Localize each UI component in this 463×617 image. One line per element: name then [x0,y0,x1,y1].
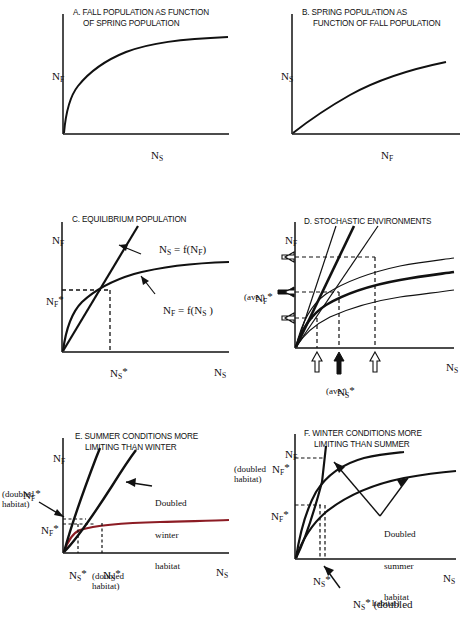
axes-a [63,14,229,134]
curve-fall-vs-spring [64,37,228,133]
panel-c-curve-label-steep: NS = f(NF) [148,233,206,269]
panel-f-ns-doubled-paren2: habitat) [372,598,400,608]
figure-page: { "figure": { "background": "#ffffff", "… [0,0,463,617]
x-arrow-average-filled [334,352,344,374]
panel-c-y-axis-label: NF [41,224,64,260]
panel-f-nf-doubled-paren2: habitat) [234,474,262,484]
line-stochastic-middle [296,226,354,347]
panel-c-title: C. EQUILIBRIUM POPULATION [72,215,186,226]
panel-c: C. EQUILIBRIUM POPULATION NF NS NS = f(N… [0,200,232,390]
panel-f-x-axis-label: NS [432,562,455,598]
panel-d-y-axis-label: NF [274,224,297,260]
panel-b-title-line1: B. SPRING POPULATION AS [302,8,407,19]
y-arrow-low-hollow [282,313,294,323]
curve-summer-limited-flat [64,520,229,552]
panel-b-title-line2: FUNCTION OF FALL POPULATION [313,19,440,30]
panel-e-title-line2: LIMITING THAN WINTER [85,443,176,454]
panel-f-nf-doubled-paren1: (doubled [234,464,266,474]
panel-f-title-line1: F. WINTER CONDITIONS MORE [304,429,422,440]
panel-e-nf-label: NF* [30,512,59,550]
panel-b-x-axis-label: NF [370,139,393,175]
line-stochastic-right [296,226,378,347]
panel-e-ns-label: NS* [58,557,87,595]
panel-f: F. WINTER CONDITIONS MORE LIMITING THAN … [232,420,463,617]
line-doubled-winter-habitat [64,450,136,552]
panel-d-ns-ave-paren: (ave.) [326,386,347,396]
line-winter-steep [64,448,100,552]
panel-e-annotation-line3: habitat [155,561,187,572]
panel-d-x-axis-label: NS [435,351,458,387]
panel-e-annotation-line1: Doubled [155,498,187,509]
panel-c-ns-star-label: NS* [99,355,128,393]
equilibrium-guides-d [295,257,375,348]
panel-a-title-line1: A. FALL POPULATION AS FUNCTION [73,8,209,19]
panel-c-x-axis-label: NS [203,356,226,392]
panel-a-title-line2: OF SPRING POPULATION [83,19,179,30]
panel-e-title-line1: E. SUMMER CONDITIONS MORE [75,432,198,443]
y-arrow-average-filled [278,287,294,297]
panel-c-nf-star-label: NF* [35,283,64,321]
panel-d-title: D. STOCHASTIC ENVIRONMENTS [304,217,431,228]
axes-e [63,438,229,553]
panel-b-y-axis-label: NS [270,60,293,96]
panel-e-nf-doubled-paren1: (doubled [2,489,34,499]
panel-e: E. SUMMER CONDITIONS MORE LIMITING THAN … [0,420,232,617]
panel-a-y-axis-label: NF [41,60,64,96]
panel-c-curve-label-sat: NF = f(NS ) [152,294,213,330]
panel-e-ns-doubled-paren2: habitat) [92,581,120,591]
curve-spring-vs-fall [293,62,446,133]
panel-d: D. STOCHASTIC ENVIRONMENTS NF NS NF* (av… [232,200,463,400]
panel-a-x-axis-label: NS [140,139,163,175]
panel-e-ns-doubled-paren1: (doubled [92,571,124,581]
annotation-arrow-sat [141,276,155,294]
panel-f-nf-label: NF* [260,498,289,536]
annotation-arrow-doubled-summer-top [334,462,380,516]
panel-f-annotation-line1: Doubled [384,529,416,540]
x-arrow-high-hollow [370,352,380,372]
panel-f-title-line2: LIMITING THAN SUMMER [314,440,410,451]
panel-e-y-axis-label: NF [42,442,65,478]
panel-d-nf-ave-paren: (ave.) [244,292,265,302]
panel-e-x-axis-label: NS [205,556,228,592]
panel-f-annotation-line2: summer [384,561,416,572]
panel-f-ns-label: NS* [302,563,331,601]
panel-e-annotation-doubled-winter: Doubled winter habitat [155,477,187,593]
panel-b: B. SPRING POPULATION AS FUNCTION OF FALL… [232,0,463,160]
annotation-arrow-doubled-winter [126,478,152,487]
panel-e-annotation-line2: winter [155,530,187,541]
panel-a: A. FALL POPULATION AS FUNCTION OF SPRING… [0,0,232,160]
line-stochastic-left [296,226,336,347]
x-arrow-low-hollow [312,352,322,372]
panel-e-nf-doubled-paren2: habitat) [2,499,30,509]
